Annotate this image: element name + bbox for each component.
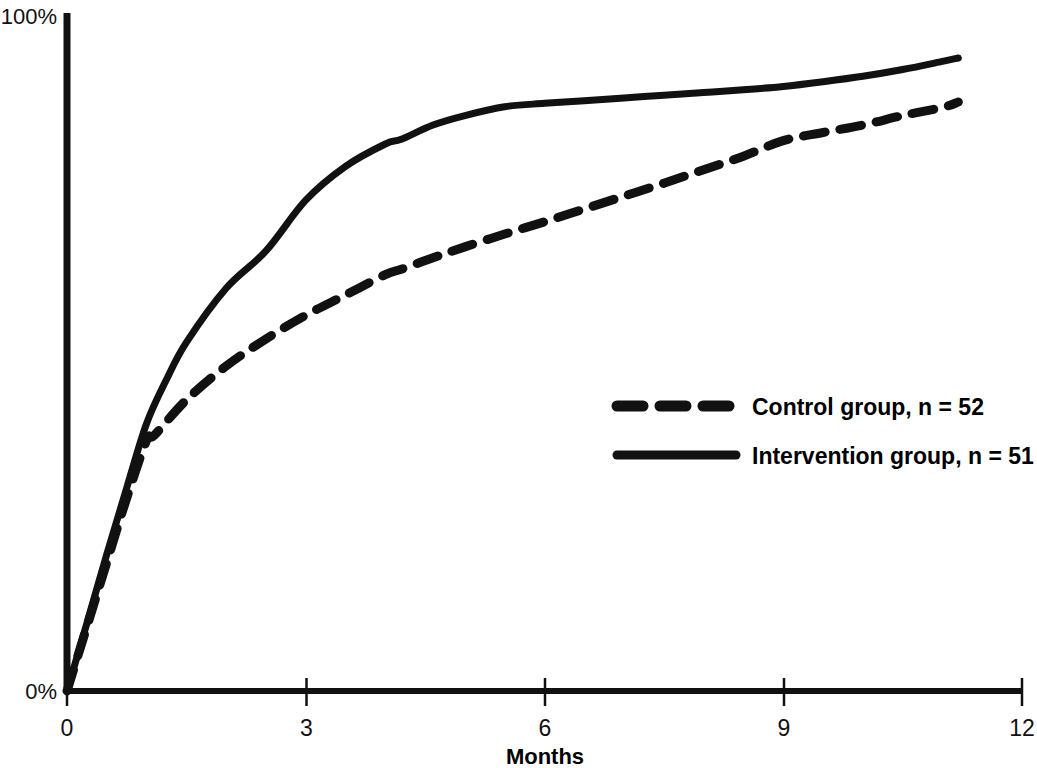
x-tick-label-0: 0 — [61, 715, 74, 741]
y-axis-top-label: 100% — [1, 4, 57, 29]
legend-label-intervention: Intervention group, n = 51 — [752, 443, 1034, 469]
x-axis-title: Months — [506, 744, 584, 768]
chart-canvas: 100% 0% 0 3 6 9 12 Months Control group,… — [0, 0, 1037, 768]
chart-background — [0, 0, 1037, 768]
x-tick-label-12: 12 — [1009, 715, 1035, 741]
x-tick-label-6: 6 — [539, 715, 552, 741]
x-tick-label-3: 3 — [300, 715, 313, 741]
legend-label-control: Control group, n = 52 — [752, 394, 984, 420]
x-tick-label-9: 9 — [778, 715, 791, 741]
chart-figure: 100% 0% 0 3 6 9 12 Months Control group,… — [0, 0, 1037, 768]
y-axis-bottom-label: 0% — [25, 679, 57, 704]
